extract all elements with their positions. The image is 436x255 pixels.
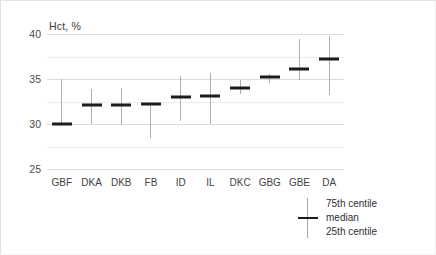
median-bar [141, 103, 161, 106]
median-bar [319, 58, 339, 61]
gridline-major [47, 124, 344, 125]
x-tick-label: IL [206, 178, 214, 188]
x-tick-label: DKA [81, 178, 102, 188]
x-tick-label: GBF [52, 178, 73, 188]
whisker-line [210, 73, 211, 124]
legend-labels: 75th centile median 25th centile [326, 197, 377, 238]
x-tick-label: FB [145, 178, 158, 188]
legend-item-upper: 75th centile [326, 197, 377, 210]
median-bar [52, 123, 72, 126]
x-tick-label: DA [322, 178, 336, 188]
legend: 75th centile median 25th centile [297, 197, 377, 238]
cross-whisker-icon [297, 198, 319, 238]
whisker-line [150, 103, 151, 138]
whisker-line [329, 36, 330, 95]
gridline-major [47, 34, 344, 35]
y-axis-title: Hct, % [49, 20, 81, 32]
x-tick-label: GBE [289, 178, 310, 188]
legend-item-median: median [326, 211, 377, 224]
median-bar [171, 96, 191, 99]
gridline-minor [47, 147, 344, 148]
x-tick-label: ID [176, 178, 186, 188]
legend-median-bar [298, 217, 318, 219]
y-tick-label: 35 [29, 74, 41, 85]
whisker-line [180, 76, 181, 121]
whisker-line [299, 39, 300, 80]
whisker-line [61, 79, 62, 126]
median-bar [230, 87, 250, 90]
y-tick-label: 25 [29, 164, 41, 175]
y-tick-label: 30 [29, 119, 41, 130]
median-bar [289, 68, 309, 71]
chart-figure: Hct, % 40353025 GBFDKADKBFBIDILDKCGBGGBE… [0, 0, 436, 255]
legend-item-lower: 25th centile [326, 225, 377, 238]
y-tick-label: 40 [29, 29, 41, 40]
x-tick-label: GBG [259, 178, 281, 188]
median-bar [82, 104, 102, 107]
plot-area: 40353025 GBFDKADKBFBIDILDKCGBGGBEDA [47, 34, 344, 169]
median-bar [111, 104, 131, 107]
median-bar [260, 76, 280, 79]
x-tick-label: DKC [229, 178, 250, 188]
median-bar [200, 95, 220, 98]
x-tick-label: DKB [111, 178, 132, 188]
gridline-major [47, 169, 344, 170]
